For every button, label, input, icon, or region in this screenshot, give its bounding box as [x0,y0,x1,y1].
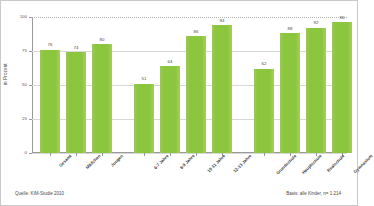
bar-value-label: 92 [314,21,319,25]
x-axis-category-label: Mädchen [85,154,101,170]
x-axis-category-label: Gesamt [59,154,73,168]
bar[interactable] [160,66,180,153]
bar-group[interactable]: 86 [186,17,206,153]
x-axis-labels: GesamtMädchenJungen6-7 Jahre8-9 Jahre10-… [32,154,347,184]
bar[interactable] [332,22,352,153]
bar[interactable] [306,28,326,153]
bar-value-label: 86 [194,30,199,34]
bars-layer: 7674805164869462889296 [32,17,347,153]
x-axis-category-label: Jungen [110,154,124,168]
basis-note: Basis: alle Kinder, n= 1.214 [286,191,341,196]
bar-group[interactable]: 76 [40,17,60,153]
bar-value-label: 62 [262,62,267,66]
bar-group[interactable]: 94 [212,17,232,153]
bar-value-label: 76 [48,43,53,47]
bar-value-label: 74 [74,46,79,50]
bar-group[interactable]: 80 [92,17,112,153]
bar-value-label: 80 [100,38,105,42]
x-axis-category-label: 12-13 Jahre [233,154,253,174]
bar[interactable] [134,84,154,153]
y-tick-label: 75 [22,49,27,53]
bar[interactable] [254,69,274,153]
bar-value-label: 51 [142,77,147,81]
x-axis-category-label: 10-11 Jahre [207,154,227,174]
bar-group[interactable]: 64 [160,17,180,153]
y-axis-title: in Prozent [3,63,8,85]
bar-value-label: 94 [220,19,225,23]
x-axis-category-label: Grundschule [276,154,298,176]
x-axis-category-label: Hauptschule [302,154,323,175]
y-tick-label: 50 [22,83,27,87]
bar-group[interactable]: 96 [332,17,352,153]
bar[interactable] [40,50,60,153]
bar-group[interactable]: 51 [134,17,154,153]
y-tick-label: 0 [25,151,27,155]
bar[interactable] [212,25,232,153]
bar-value-label: 88 [288,27,293,31]
y-tick-label: 100 [20,15,27,19]
bar[interactable] [66,52,86,153]
bar-value-label: 96 [340,16,345,20]
bar[interactable] [92,44,112,153]
bar-group[interactable]: 88 [280,17,300,153]
bar[interactable] [280,33,300,153]
x-axis-category-label: 6-7 Jahre [154,154,170,170]
x-axis-category-label: Realschule [327,154,346,173]
bar-group[interactable]: 62 [254,17,274,153]
source-note: Quelle: KIM-Studie 2010 [15,191,64,196]
bar-group[interactable]: 92 [306,17,326,153]
bar-group[interactable]: 74 [66,17,86,153]
y-tick-label: 25 [22,117,27,121]
plot-area: 0255075100 7674805164869462889296 [32,17,347,153]
bar[interactable] [186,36,206,153]
x-axis-category-label: Gymnasium [353,154,373,174]
x-axis-category-label: 8-9 Jahre [180,154,196,170]
bar-value-label: 64 [168,60,173,64]
